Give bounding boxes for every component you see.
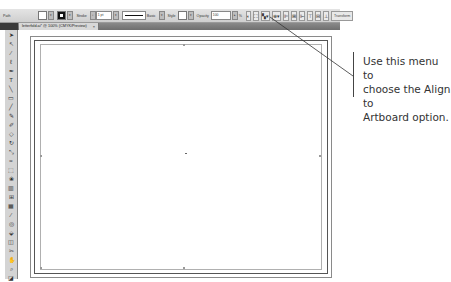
style-swatch[interactable] (178, 11, 187, 20)
opacity-unit: % (239, 14, 242, 18)
warp-tool-icon[interactable]: ≈ (6, 157, 16, 165)
style-label: Style (168, 14, 176, 18)
pen-tool-icon[interactable]: ✒ (6, 67, 16, 75)
opacity-label[interactable]: Opacity (197, 14, 209, 18)
opacity-control[interactable]: Opacity 100 ▸ % (197, 11, 244, 20)
align-bottom-icon[interactable]: ⊥ (323, 11, 329, 21)
align-to-artboard-menu-icon[interactable]: ⊕▾ (272, 11, 281, 21)
annotation-line-3: Artboard option. (363, 110, 451, 124)
align-top-icon[interactable]: ⊤ (307, 11, 313, 21)
fill-control[interactable]: ▾ (38, 11, 54, 20)
tools-panel: ➤ ↖ ⁄ ℓ ✒ T ╲ ▭ ╱ ✎ ✐ ◇ ↻ ⤡ ≈ ⬚ ❀ ▥ ⊞ ▦ … (5, 30, 18, 279)
direct-selection-tool-icon[interactable]: ↖ (6, 40, 16, 48)
free-transform-tool-icon[interactable]: ⬚ (6, 166, 16, 174)
stroke-weight-field[interactable]: 1 pt (96, 11, 112, 20)
annotation-rule (353, 52, 354, 97)
zoom-tool-icon[interactable]: ⌕ (6, 265, 16, 273)
transform-button[interactable]: Transform (331, 11, 353, 21)
live-paint-tool-icon[interactable]: ⬙ (6, 229, 16, 237)
selection-tool-icon[interactable]: ➤ (6, 31, 16, 39)
mesh-tool-icon[interactable]: ⊞ (6, 193, 16, 201)
eyedropper-tool-icon[interactable]: ⁄ (6, 211, 16, 219)
canvas[interactable] (18, 30, 340, 279)
line-tool-icon[interactable]: ╲ (6, 85, 16, 93)
opacity-field[interactable]: 100 (211, 11, 231, 20)
document-tab-strip: letterfold.ai* @ 100% (CMYK/Preview) × (0, 23, 340, 30)
document-tab-title[interactable]: letterfold.ai* @ 100% (CMYK/Preview) (22, 23, 87, 30)
select-similar-icon[interactable]: ▚▾ (261, 11, 270, 21)
blend-tool-icon[interactable]: ◎ (6, 220, 16, 228)
brush-preview[interactable] (122, 11, 146, 20)
lasso-tool-icon[interactable]: ℓ (6, 58, 16, 66)
selection-handle[interactable] (40, 267, 42, 269)
annotation-line-1: Use this menu to (363, 54, 451, 82)
align-left-icon[interactable]: ⊫ (283, 11, 289, 21)
selection-handle[interactable] (183, 44, 185, 46)
selection-handle[interactable] (319, 155, 321, 157)
selection-handle[interactable] (183, 267, 185, 269)
gradient-tool-icon[interactable]: ▦ (6, 202, 16, 210)
symbol-sprayer-tool-icon[interactable]: ❀ (6, 175, 16, 183)
fill-dropdown-icon[interactable]: ▾ (48, 11, 54, 20)
opacity-dropdown-icon[interactable]: ▸ (232, 11, 238, 20)
tools-panel-grip[interactable] (0, 23, 18, 30)
isolate-object-icon[interactable]: ⛶ (253, 11, 259, 21)
center-point (185, 153, 187, 154)
align-horizontal-center-icon[interactable]: ⊞ (291, 11, 297, 21)
document-tab[interactable]: letterfold.ai* @ 100% (CMYK/Preview) × (19, 23, 99, 30)
align-vertical-center-icon[interactable]: ⊟ (315, 11, 321, 21)
hand-tool-icon[interactable]: ✋ (6, 256, 16, 264)
type-tool-icon[interactable]: T (6, 76, 16, 84)
illustrator-window: Path ▾ ▾ Stroke ↕ 1 pt ▾ Basic ▾ Style ▾… (0, 0, 340, 279)
margin-guide (40, 44, 322, 270)
pencil-tool-icon[interactable]: ✎ (6, 112, 16, 120)
scale-tool-icon[interactable]: ⤡ (6, 148, 16, 156)
style-dropdown-icon[interactable]: ▾ (188, 11, 194, 20)
magic-wand-tool-icon[interactable]: ⁄ (6, 49, 16, 57)
rotate-tool-icon[interactable]: ↻ (6, 139, 16, 147)
brush-control[interactable]: Basic ▾ (122, 11, 165, 20)
column-graph-tool-icon[interactable]: ▥ (6, 184, 16, 192)
close-icon[interactable]: × (93, 23, 95, 30)
blob-brush-tool-icon[interactable]: ✐ (6, 121, 16, 129)
annotation-text: Use this menu to choose the Align to Art… (363, 54, 451, 124)
fill-swatch[interactable] (38, 11, 47, 20)
fill-stroke-swatches-icon[interactable]: ◪ (6, 274, 16, 282)
stroke-swatch[interactable] (57, 11, 66, 20)
stroke-weight-dropdown-icon[interactable]: ▾ (113, 11, 119, 20)
control-bar: Path ▾ ▾ Stroke ↕ 1 pt ▾ Basic ▾ Style ▾… (0, 9, 340, 23)
brush-dropdown-icon[interactable]: ▾ (159, 11, 165, 20)
annotation-line-2: choose the Align to (363, 82, 451, 110)
recolor-artwork-icon[interactable]: ◐ (246, 11, 251, 21)
slice-tool-icon[interactable]: ✂ (6, 247, 16, 255)
rectangle-tool-icon[interactable]: ▭ (6, 94, 16, 102)
stroke-label[interactable]: Stroke (76, 14, 86, 18)
stroke-weight-control[interactable]: Stroke ↕ 1 pt ▾ (76, 11, 118, 20)
paintbrush-tool-icon[interactable]: ╱ (6, 103, 16, 111)
selection-type: Path (3, 14, 12, 18)
align-right-icon[interactable]: ⊩ (299, 11, 305, 21)
style-control[interactable]: Style ▾ (168, 11, 194, 20)
stroke-dropdown-icon[interactable]: ▾ (67, 11, 73, 20)
stroke-color-control[interactable]: ▾ (57, 11, 73, 20)
artboard-tool-icon[interactable]: ◫ (6, 238, 16, 246)
selection-type-label: Path (3, 14, 10, 18)
brush-label: Basic (147, 14, 156, 18)
eraser-tool-icon[interactable]: ◇ (6, 130, 16, 138)
selection-handle[interactable] (40, 155, 42, 157)
